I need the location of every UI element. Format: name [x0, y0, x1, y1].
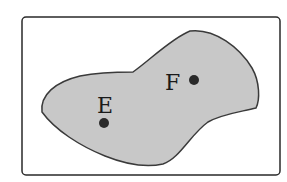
point-e-dot	[99, 118, 109, 128]
region-diagram: E F	[0, 0, 287, 182]
point-f-label: F	[165, 70, 180, 95]
point-e-label: E	[97, 93, 113, 118]
point-f-dot	[189, 75, 199, 85]
